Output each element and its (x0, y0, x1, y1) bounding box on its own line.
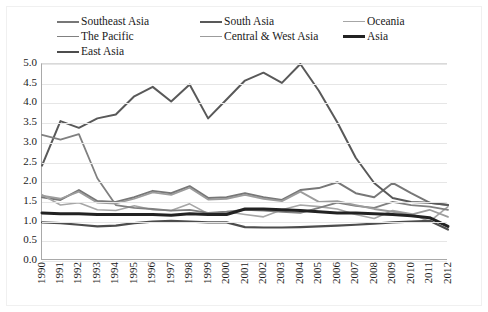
x-tick-label: 2010 (405, 262, 416, 284)
x-tick-label: 2005 (312, 262, 323, 284)
legend-swatch-line-icon (200, 36, 222, 37)
legend-item[interactable]: Asia (343, 31, 388, 42)
x-tick-label: 2007 (349, 262, 360, 284)
gridline (42, 202, 447, 203)
x-tick-label: 1995 (128, 262, 139, 284)
gridline (42, 222, 447, 223)
x-tick-label: 1993 (91, 262, 102, 284)
gridline (42, 84, 447, 85)
gridline (42, 143, 447, 144)
chart-figure: Southeast AsiaSouth AsiaOceaniaThe Pacif… (0, 0, 488, 312)
legend-swatch-line-icon (200, 21, 222, 23)
legend-item[interactable]: East Asia (57, 46, 124, 57)
gridline (42, 182, 447, 183)
legend-label: Asia (367, 31, 388, 42)
x-tick-label: 2008 (368, 262, 379, 284)
x-tick-label: 2000 (220, 262, 231, 284)
x-axis-line (41, 259, 447, 260)
x-axis-tick-labels: 1990199119921993199419951996199719981999… (41, 262, 447, 308)
x-tick-label: 1990 (36, 262, 47, 284)
x-tick-label: 1998 (183, 262, 194, 284)
y-tick-label: 5.0 (3, 57, 37, 68)
gridline (42, 103, 447, 104)
y-tick-label: 0.0 (3, 254, 37, 265)
x-tick-label: 2009 (386, 262, 397, 284)
x-tick-label: 1991 (54, 262, 65, 284)
y-tick-label: 1.5 (3, 195, 37, 206)
legend-label: Southeast Asia (81, 16, 149, 27)
plot-frame (41, 63, 447, 260)
legend-swatch-line-icon (343, 21, 365, 22)
y-tick-label: 2.5 (3, 156, 37, 167)
series-line (42, 64, 448, 205)
y-axis-tick-labels: 0.00.51.01.52.02.53.03.54.04.55.0 (0, 63, 37, 260)
legend-row: The PacificCentral & West AsiaAsia (57, 29, 447, 44)
legend-label: The Pacific (81, 31, 134, 42)
gridline (42, 241, 447, 242)
chart-legend: Southeast AsiaSouth AsiaOceaniaThe Pacif… (57, 14, 447, 60)
gridline (42, 163, 447, 164)
legend-swatch-line-icon (57, 36, 79, 37)
x-tick-label: 2003 (275, 262, 286, 284)
x-tick-label: 1996 (146, 262, 157, 284)
x-tick-label: 1994 (109, 262, 120, 284)
legend-item[interactable]: Southeast Asia (57, 16, 149, 27)
legend-item[interactable]: The Pacific (57, 31, 134, 42)
x-tick-label: 1999 (202, 262, 213, 284)
y-tick-label: 1.0 (3, 215, 37, 226)
y-tick-label: 3.0 (3, 136, 37, 147)
x-tick-label: 2006 (331, 262, 342, 284)
x-tick-label: 1992 (72, 262, 83, 284)
legend-item[interactable]: Central & West Asia (200, 31, 318, 42)
x-tick-label: 1997 (165, 262, 176, 284)
legend-swatch-line-icon (343, 35, 365, 38)
legend-label: East Asia (81, 46, 124, 57)
gridline (42, 64, 447, 65)
x-tick-label: 2011 (423, 262, 434, 284)
legend-label: South Asia (224, 16, 274, 27)
x-tick-label: 2012 (442, 262, 453, 284)
legend-label: Central & West Asia (224, 31, 318, 42)
x-tick-label: 2004 (294, 262, 305, 284)
y-tick-label: 4.5 (3, 77, 37, 88)
legend-swatch-line-icon (57, 51, 79, 53)
legend-label: Oceania (367, 16, 405, 27)
legend-row: Southeast AsiaSouth AsiaOceania (57, 14, 447, 29)
gridline (42, 123, 447, 124)
x-tick-label: 2002 (257, 262, 268, 284)
y-tick-label: 3.5 (3, 116, 37, 127)
y-tick-label: 2.0 (3, 175, 37, 186)
y-tick-label: 0.5 (3, 234, 37, 245)
legend-item[interactable]: Oceania (343, 16, 405, 27)
x-tick-label: 2001 (239, 262, 250, 284)
legend-item[interactable]: South Asia (200, 16, 274, 27)
legend-swatch-line-icon (57, 21, 79, 23)
y-tick-label: 4.0 (3, 96, 37, 107)
plot-area (42, 64, 447, 260)
legend-row: East Asia (57, 44, 447, 59)
